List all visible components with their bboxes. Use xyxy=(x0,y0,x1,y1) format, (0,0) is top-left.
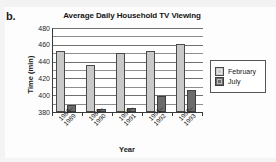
bar-group xyxy=(173,28,203,112)
plot-area xyxy=(52,28,203,113)
chart-title: Average Daily Household TV Viewing xyxy=(52,11,212,20)
y-tick-label: 440 xyxy=(26,58,50,65)
x-axis-label: Year xyxy=(52,145,202,154)
x-tick xyxy=(52,113,53,116)
y-tick-label: 460 xyxy=(26,41,50,48)
x-tick xyxy=(142,113,143,116)
x-tick xyxy=(202,113,203,116)
y-tick-label: 420 xyxy=(26,75,50,82)
legend-swatch-jul xyxy=(215,77,224,86)
bar-february xyxy=(176,44,186,112)
legend-item: February xyxy=(215,67,260,76)
page-top-margin xyxy=(0,0,276,7)
bar-group xyxy=(53,28,83,112)
y-tick-label: 480 xyxy=(26,25,50,32)
bar-group xyxy=(143,28,173,112)
x-tick xyxy=(82,113,83,116)
legend-label: February xyxy=(228,68,256,75)
legend-item: July xyxy=(215,77,260,86)
x-tick xyxy=(172,113,173,116)
bar-february xyxy=(86,65,96,112)
y-tick-label: 380 xyxy=(26,109,50,116)
bar-february xyxy=(56,51,66,112)
page-bottom-margin xyxy=(0,158,276,162)
part-label: b. xyxy=(6,10,15,22)
legend-label: July xyxy=(228,78,240,85)
chart-legend: FebruaryJuly xyxy=(210,60,266,93)
legend-swatch-feb xyxy=(215,67,224,76)
page-left-margin xyxy=(0,0,5,162)
bar-group xyxy=(83,28,113,112)
bar-february xyxy=(116,53,126,112)
bar-group xyxy=(113,28,143,112)
y-axis-tick-labels: 380400420440460480 xyxy=(24,28,50,114)
y-tick-label: 400 xyxy=(26,92,50,99)
bar-february xyxy=(146,51,156,112)
chart-page: b. Average Daily Household TV Viewing Ti… xyxy=(0,0,276,162)
x-tick xyxy=(112,113,113,116)
